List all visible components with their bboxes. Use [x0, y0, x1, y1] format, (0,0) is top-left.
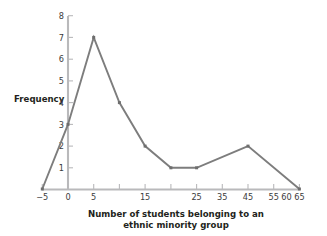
y-tick-label: 7: [59, 33, 64, 43]
data-point-markers: [41, 36, 301, 191]
data-point-marker: [247, 145, 250, 148]
x-tick-label: −5: [36, 192, 48, 202]
data-point-marker: [298, 188, 301, 191]
data-point-marker: [169, 166, 172, 169]
y-tick-label: 5: [59, 76, 64, 86]
y-tick-label: 1: [59, 163, 64, 173]
x-tick-label: 0: [65, 192, 70, 202]
x-tick-label: 5: [91, 192, 96, 202]
x-tick-label: 55: [268, 192, 278, 202]
x-tick-label: 25: [191, 192, 201, 202]
x-axis-tick-labels: −5 0 5 15 25 35 45 55 60 65: [36, 192, 304, 202]
x-tick-label: 15: [140, 192, 150, 202]
data-point-marker: [118, 101, 121, 104]
frequency-polygon-line: [42, 37, 299, 189]
data-point-marker: [144, 145, 147, 148]
y-tick-label: 6: [59, 54, 64, 64]
y-tick-label: 4: [59, 98, 64, 108]
data-point-marker: [92, 36, 95, 39]
x-tick-label: 45: [243, 192, 253, 202]
x-tick-label: 65: [294, 192, 304, 202]
frequency-polygon-chart: Frequency 1 2 3 4 5 6 7 8: [0, 0, 327, 236]
x-axis-label-line2: ethnic minority group: [123, 220, 229, 230]
y-axis-label: Frequency: [14, 94, 65, 104]
x-tick-label: 60: [281, 192, 291, 202]
data-point-marker: [195, 166, 198, 169]
y-tick-label: 8: [59, 11, 64, 21]
x-axis-ticks: [42, 184, 299, 189]
y-axis-tick-labels: 1 2 3 4 5 6 7 8: [59, 11, 64, 173]
x-tick-label: 35: [217, 192, 227, 202]
x-axis-label-line1: Number of students belonging to an: [88, 209, 264, 219]
data-point-marker: [41, 188, 44, 191]
y-tick-label: 3: [59, 120, 64, 130]
chart-plot-area: Frequency 1 2 3 4 5 6 7 8: [0, 0, 327, 236]
data-point-marker: [67, 123, 70, 126]
